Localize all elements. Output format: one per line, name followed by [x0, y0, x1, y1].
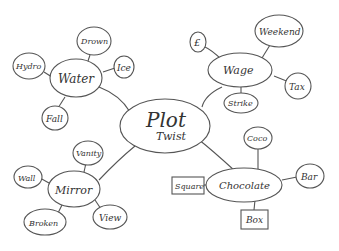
branch-chocolate[interactable]: Chocolate — [206, 168, 282, 202]
leaf-wall[interactable]: Wall — [14, 166, 42, 188]
leaf-strike[interactable]: Strike — [224, 93, 258, 113]
leaf-tax[interactable]: Tax — [285, 73, 311, 99]
leaf-ice[interactable]: Ice — [114, 56, 134, 78]
leaf-label: Bar — [300, 172, 318, 182]
branch-water[interactable]: Water — [50, 59, 102, 97]
connector-chocolate-bar — [282, 177, 297, 180]
connector-center-water — [99, 87, 130, 112]
leaf-bar[interactable]: Bar — [296, 164, 324, 188]
branch-label-mirror: Mirror — [54, 184, 93, 197]
branch-mirror[interactable]: Mirror — [48, 171, 100, 207]
leaf-fall[interactable]: Fall — [42, 106, 68, 130]
mind-map-canvas: Plot Twist Water Hydro Drown Ice Fall Wa… — [0, 0, 339, 251]
leaf-weekend[interactable]: Weekend — [255, 15, 303, 47]
leaf-label: Hydro — [15, 62, 41, 71]
leaf-label: Drown — [80, 37, 108, 46]
leaf-hydro[interactable]: Hydro — [13, 53, 45, 79]
center-label-line2: Twist — [156, 130, 187, 143]
leaf-square[interactable]: Square — [172, 177, 204, 194]
connector-center-mirror — [99, 146, 135, 180]
connector-wage-weekend — [262, 45, 270, 58]
leaf-drown[interactable]: Drown — [77, 27, 111, 55]
leaf-coco[interactable]: Coco — [244, 127, 272, 149]
leaf-label: £ — [193, 37, 201, 48]
leaf-label: Vanity — [76, 149, 102, 158]
center-node[interactable]: Plot Twist — [120, 99, 210, 153]
leaf-label: Broken — [28, 219, 58, 228]
branch-label-water: Water — [58, 72, 95, 86]
leaf-pound[interactable]: £ — [190, 32, 206, 52]
connector-water-ice — [103, 68, 115, 72]
branch-wage[interactable]: Wage — [208, 53, 272, 87]
leaf-broken[interactable]: Broken — [24, 209, 66, 235]
leaf-vanity[interactable]: Vanity — [73, 141, 103, 165]
leaf-label: Tax — [289, 82, 305, 92]
branch-label-chocolate: Chocolate — [219, 180, 270, 191]
connector-center-chocolate — [198, 139, 235, 171]
leaf-label: Square — [175, 182, 204, 191]
leaf-label: Ice — [116, 63, 131, 73]
center-label-line1: Plot — [145, 108, 187, 132]
leaf-label: Strike — [228, 99, 253, 108]
leaf-label: Box — [245, 215, 263, 225]
leaf-view[interactable]: View — [93, 205, 127, 229]
leaf-label: View — [99, 213, 122, 223]
leaf-box[interactable]: Box — [241, 210, 268, 229]
branch-label-wage: Wage — [223, 64, 254, 77]
leaf-label: Coco — [247, 134, 267, 143]
leaf-label: Fall — [45, 114, 63, 124]
leaf-label: Weekend — [259, 27, 301, 37]
leaf-label: Wall — [18, 174, 36, 183]
connector-center-wage — [202, 87, 222, 107]
